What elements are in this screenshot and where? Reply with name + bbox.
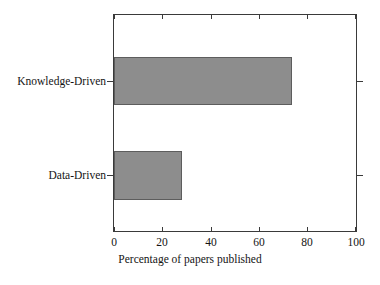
plot-area — [113, 14, 357, 232]
ytick-label-knowledge-driven: Knowledge-Driven — [6, 75, 106, 88]
ytick-mark-right-data-driven — [357, 175, 363, 176]
xtick-mark-60 — [259, 227, 260, 232]
xtick-mark-top-40 — [211, 14, 212, 19]
xtick-mark-top-100 — [355, 14, 356, 19]
ytick-mark-knowledge-driven — [107, 81, 113, 82]
bar-chart-figure: 0 20 40 60 80 100 Knowledge-Driven Data-… — [0, 0, 380, 285]
xtick-mark-80 — [307, 227, 308, 232]
xtick-mark-top-0 — [114, 14, 115, 19]
xtick-mark-40 — [211, 227, 212, 232]
xtick-label-20: 20 — [156, 236, 168, 249]
xtick-label-100: 100 — [347, 236, 364, 249]
xtick-mark-0 — [114, 227, 115, 232]
xtick-label-40: 40 — [205, 236, 217, 249]
xtick-label-60: 60 — [253, 236, 265, 249]
xtick-label-0: 0 — [111, 236, 117, 249]
xtick-mark-20 — [162, 227, 163, 232]
ytick-mark-right-knowledge-driven — [357, 81, 363, 82]
ytick-mark-data-driven — [107, 175, 113, 176]
ytick-label-data-driven: Data-Driven — [6, 169, 106, 182]
xtick-label-80: 80 — [301, 236, 313, 249]
bar-data-driven[interactable] — [114, 151, 182, 200]
xtick-mark-top-20 — [162, 14, 163, 19]
x-axis-title: Percentage of papers published — [0, 252, 380, 266]
bar-knowledge-driven[interactable] — [114, 57, 292, 105]
xtick-mark-top-80 — [307, 14, 308, 19]
xtick-mark-top-60 — [259, 14, 260, 19]
xtick-mark-100 — [355, 227, 356, 232]
